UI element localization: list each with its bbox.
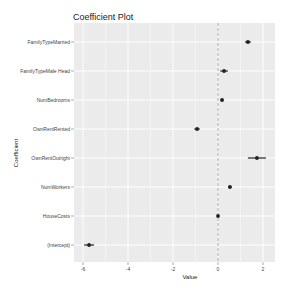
x-tick-label: -6: [81, 266, 86, 272]
coefficient-point: [87, 243, 91, 247]
y-tick-label: HouseCosts: [43, 213, 71, 219]
coefficient-plot: FamilyTypeMarriedFamilyTypeMale HeadNumB…: [0, 0, 288, 293]
coefficient-point: [220, 98, 224, 102]
coefficient-point: [228, 185, 232, 189]
x-tick-label: -2: [171, 266, 176, 272]
y-tick-label: FamilyTypeMarried: [27, 39, 70, 45]
x-tick-label: -4: [126, 266, 131, 272]
y-tick-label: NumWorkers: [41, 184, 71, 190]
x-tick-label: 0: [217, 266, 220, 272]
coefficient-point: [222, 69, 226, 73]
y-tick-label: NumBedrooms: [37, 97, 71, 103]
y-tick-label: FamilyTypeMale Head: [20, 68, 70, 74]
coefficient-point: [246, 40, 250, 44]
x-tick-label: 2: [262, 266, 265, 272]
plot-panel: [74, 23, 275, 262]
coefficient-point: [255, 156, 259, 160]
coefficient-point: [195, 127, 199, 131]
y-tick-label: OwnRentRented: [33, 126, 70, 132]
coefficient-point: [216, 214, 220, 218]
y-tick-label: OwnRentOutright: [31, 155, 70, 161]
y-tick-label: (Intercept): [47, 242, 70, 248]
